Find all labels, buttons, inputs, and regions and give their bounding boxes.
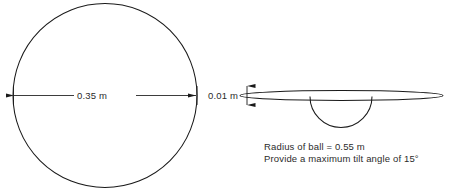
side-view-group <box>240 86 443 128</box>
figure-caption: Radius of ball = 0.55 m Provide a maximu… <box>264 141 419 164</box>
diagram-canvas: 0.35 m 0.01 m Radius of ball = 0.55 m Pr… <box>0 0 452 191</box>
plate-thickness-label: 0.01 m <box>207 90 239 101</box>
ball-hemisphere-arc <box>310 97 372 128</box>
caption-line-tilt-angle: Provide a maximum tilt angle of 15° <box>264 153 419 165</box>
caption-line-radius: Radius of ball = 0.55 m <box>264 141 419 153</box>
plate-ellipse-outline <box>240 91 443 101</box>
plate-diameter-label: 0.35 m <box>74 90 110 101</box>
